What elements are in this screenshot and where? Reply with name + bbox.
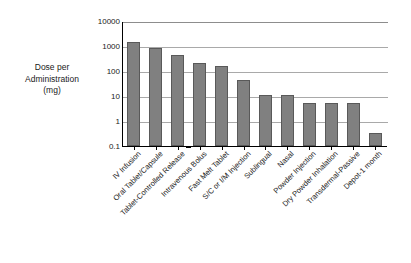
y-axis-tick-labels: 1000010001001010.1 [68, 22, 120, 152]
y-tick-label-0.1: 0.1 [74, 143, 120, 151]
bar-depot-1-month [369, 133, 382, 146]
bar-oral-tablet-capsule [149, 48, 162, 146]
gridline-10000 [123, 22, 388, 23]
y-tick-label-10000: 10000 [74, 18, 120, 26]
y-tick-label-1000: 1000 [74, 43, 120, 51]
gridline-10 [123, 97, 388, 98]
gridline-1000 [123, 47, 388, 48]
y-tick-label-1: 1 [74, 118, 120, 126]
x-axis-tick-labels: IV InfusionOral Tablet/CapsuleTablet-Con… [122, 148, 411, 263]
bar-powder-injection [303, 103, 316, 147]
gridline-100 [123, 72, 388, 73]
bar-tablet-controlled-release [171, 55, 184, 146]
bar-nasal [281, 95, 294, 146]
y-tick-label-100: 100 [74, 68, 120, 76]
bar-sublingual [259, 95, 272, 146]
bar-transdermal-passive [347, 103, 360, 147]
bar-iv-infusion [127, 42, 140, 146]
y-tick-label-10: 10 [74, 93, 120, 101]
plot-area [122, 22, 387, 147]
dose-per-administration-chart: Dose per Administration (mg) 10000100010… [0, 0, 411, 263]
bar-dry-powder-inhalation [325, 103, 338, 147]
bar-intravenous-bolus [193, 63, 206, 146]
bar-s-c-or-i-m-injection [237, 80, 250, 146]
bar-fast-melt-tablet [215, 66, 228, 146]
